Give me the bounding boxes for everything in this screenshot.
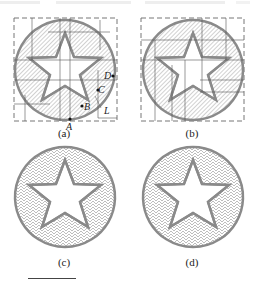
label-point-b: B	[84, 101, 90, 112]
panel-d	[143, 147, 243, 247]
panel-b	[141, 18, 244, 121]
toolpath-figure	[0, 0, 258, 283]
caption-b: (b)	[172, 127, 212, 139]
panel-a	[14, 18, 117, 121]
caption-a: (a)	[44, 127, 84, 139]
label-point-c: C	[98, 84, 105, 95]
point-d	[111, 74, 114, 77]
footnote-rule	[28, 278, 76, 279]
caption-c: (c)	[44, 256, 84, 268]
label-point-d: D	[104, 70, 111, 81]
panel-c	[15, 147, 115, 247]
caption-d: (d)	[172, 256, 212, 268]
label-line-l: L	[104, 105, 110, 116]
